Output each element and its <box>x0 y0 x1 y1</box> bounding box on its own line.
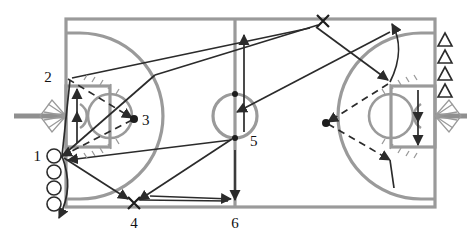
label-5: 5 <box>250 133 258 149</box>
run-line-1-to-4 <box>64 158 128 199</box>
court-svg: 1 2 3 4 5 6 <box>0 0 471 247</box>
label-1: 1 <box>34 148 42 164</box>
pass-line-right-upper <box>328 84 388 122</box>
pass-line-topright-to-center <box>237 32 390 112</box>
cone-triangle <box>438 84 452 97</box>
court-boundary <box>66 19 435 207</box>
baseline-link <box>140 200 228 201</box>
basketball-court-diagram: 1 2 3 4 5 6 <box>0 0 471 247</box>
baseline-link-arrow <box>150 196 231 199</box>
player-circle <box>47 165 61 179</box>
long-pass-left-to-topx <box>72 28 310 78</box>
ball-dot-center-bottom <box>232 135 238 141</box>
pass-line-center-to-1 <box>68 140 231 160</box>
right-three-point-arc <box>338 33 435 199</box>
player-queue-group <box>47 149 61 211</box>
cone-group <box>438 33 452 97</box>
player-circle <box>47 149 61 163</box>
cone-triangle <box>438 67 452 80</box>
cone-triangle <box>438 33 452 46</box>
label-2: 2 <box>44 69 52 85</box>
pass-line-bottom-to-center <box>139 139 232 200</box>
label-3: 3 <box>142 112 150 128</box>
player-circle <box>47 181 61 195</box>
player-circle <box>47 197 61 211</box>
label-6: 6 <box>231 215 239 231</box>
run-line-right-down <box>390 160 394 188</box>
label-4: 4 <box>130 215 138 231</box>
run-curve-right-up <box>390 24 399 82</box>
ball-dot-left <box>130 115 138 123</box>
x-marker-top <box>317 15 329 27</box>
ball-dot-right <box>322 119 330 127</box>
pass-line-right-lower <box>328 124 390 160</box>
ball-dot-center-top <box>232 91 238 97</box>
cone-triangle <box>438 50 452 63</box>
left-restricted-arc <box>80 104 87 128</box>
